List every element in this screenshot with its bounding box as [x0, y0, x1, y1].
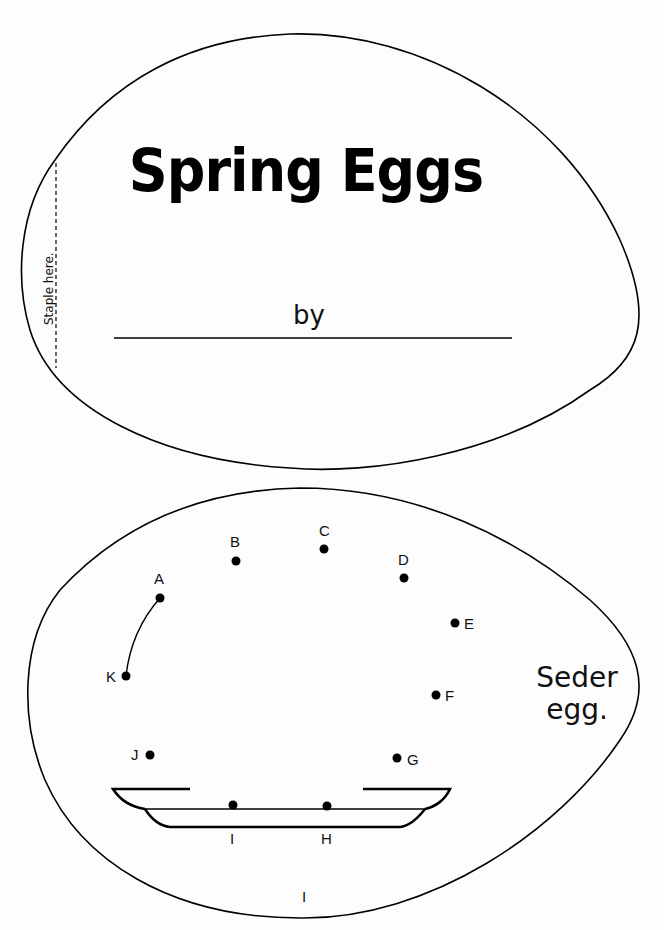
- dot-label-h: H: [321, 830, 332, 847]
- dot-label-d: D: [398, 551, 409, 568]
- dot-label-a: A: [154, 570, 164, 587]
- by-label: by: [293, 300, 325, 330]
- dot-label-i: I: [230, 830, 234, 847]
- dot-e[interactable]: [451, 619, 460, 628]
- seder-egg-caption: Seder egg.: [532, 662, 622, 726]
- caption-text: Seder egg.: [532, 662, 622, 726]
- staple-label: Staple here.: [42, 252, 56, 325]
- dot-label-c: C: [319, 522, 330, 539]
- dot-label-f: F: [445, 687, 454, 704]
- dot-label-e: E: [464, 615, 474, 632]
- dot-a[interactable]: [156, 594, 165, 603]
- dot-d[interactable]: [400, 574, 409, 583]
- plate-drawing: [113, 789, 450, 827]
- cover-egg-outline: [22, 34, 640, 469]
- dot-c[interactable]: [320, 545, 329, 554]
- page-number: I: [302, 888, 306, 905]
- dot-j[interactable]: [146, 751, 155, 760]
- dot-g[interactable]: [393, 754, 402, 763]
- dot-k[interactable]: [122, 672, 131, 681]
- dot-f[interactable]: [432, 691, 441, 700]
- dot-label-g: G: [407, 751, 419, 768]
- dot-label-j: J: [131, 746, 139, 763]
- dot-markers: [122, 545, 460, 811]
- cover-title: Spring Eggs: [120, 142, 492, 200]
- connect-line-k-a: [126, 598, 160, 676]
- worksheet-page: Spring Eggs by Staple here. A B C D E F …: [0, 0, 664, 930]
- dot-i[interactable]: [229, 801, 238, 810]
- dot-h[interactable]: [323, 802, 332, 811]
- dot-label-k: K: [106, 668, 116, 685]
- dot-b[interactable]: [232, 557, 241, 566]
- dot-label-b: B: [230, 533, 240, 550]
